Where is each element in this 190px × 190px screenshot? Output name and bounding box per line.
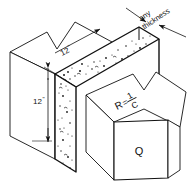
figure-canvas: 12 " 12 " any thickness R = [0, 0, 190, 190]
dim-side-unit: " [43, 96, 45, 102]
isometric-diagram-svg: 12 " 12 " any thickness R = [0, 0, 190, 190]
right-flow-arrow [86, 72, 186, 180]
wall-end-face [55, 74, 76, 172]
right-arrow-side-face [168, 120, 180, 178]
dim-side-label: 12 [33, 97, 42, 106]
heat-flow-label: Q [135, 145, 144, 157]
